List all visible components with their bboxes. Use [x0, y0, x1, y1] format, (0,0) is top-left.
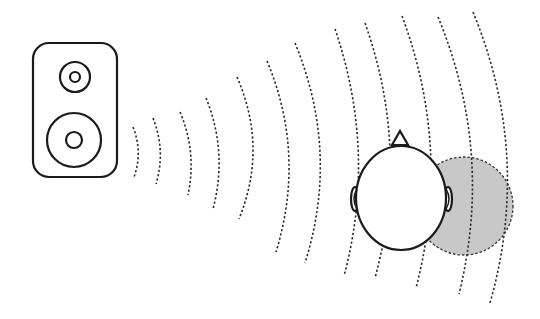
wave-arc-1 [133, 127, 138, 177]
wave-arc-4 [206, 98, 219, 209]
wave-arc-5 [237, 77, 253, 219]
wave-arc-12 [473, 12, 507, 303]
tweeter-inner [70, 72, 80, 82]
nose-icon [392, 131, 408, 145]
loudspeaker-icon [33, 43, 117, 177]
wave-arc-7 [295, 43, 320, 263]
wave-arc-8 [335, 29, 359, 276]
wave-arc-2 [153, 118, 160, 184]
sound-waves [133, 12, 507, 303]
woofer-inner [66, 132, 82, 148]
head-outline [356, 146, 446, 250]
wave-arc-3 [180, 112, 191, 195]
wave-arc-6 [267, 61, 289, 252]
tweeter-outer [60, 62, 90, 92]
woofer-outer [47, 113, 101, 167]
diagram-canvas: Sound waves from a loudspeaker reach a l… [0, 0, 540, 319]
